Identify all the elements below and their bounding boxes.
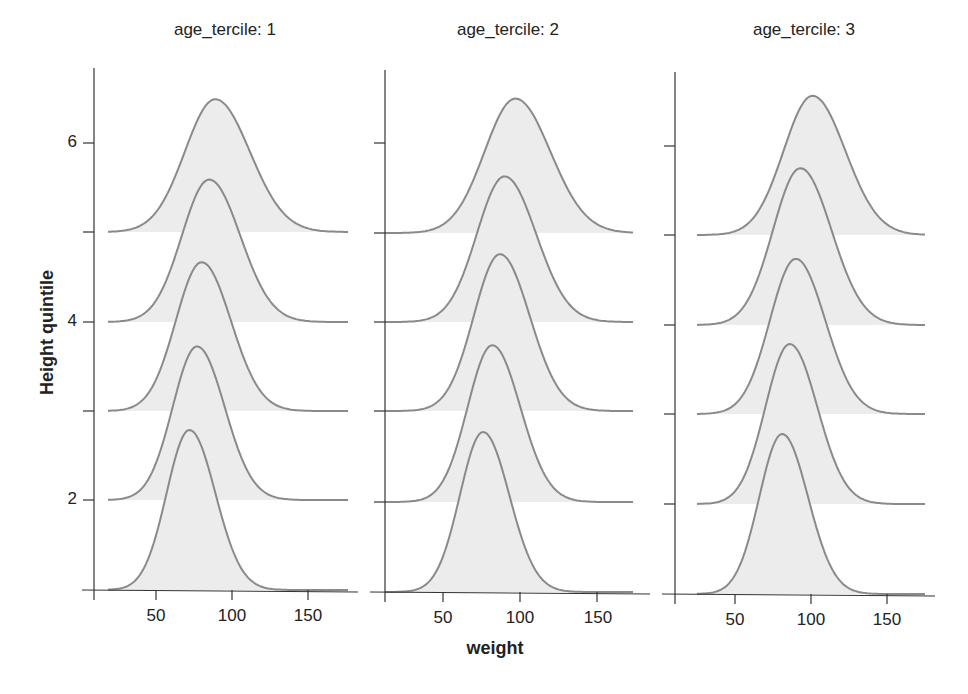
xtick-label-p1-150: 150 (283, 606, 333, 626)
xtick-label-p3-100: 100 (786, 610, 836, 630)
panel-title-1: age_tercile: 1 (115, 20, 335, 40)
xtick-label-p3-150: 150 (862, 610, 912, 630)
xtick-label-p1-100: 100 (207, 606, 257, 626)
xtick-label-p3-50: 50 (710, 610, 760, 630)
ridgeline-chart (0, 0, 968, 694)
panel-title-2: age_tercile: 2 (398, 20, 618, 40)
panel-title-3: age_tercile: 3 (694, 20, 914, 40)
ytick-label-2: 2 (53, 489, 77, 509)
xtick-label-p1-50: 50 (131, 606, 181, 626)
x-axis-label: weight (445, 638, 545, 659)
ytick-label-6: 6 (53, 132, 77, 152)
y-axis-label: Height quintile (37, 258, 58, 408)
xtick-label-p2-150: 150 (573, 608, 623, 628)
xtick-label-p2-50: 50 (418, 608, 468, 628)
xtick-label-p2-100: 100 (495, 608, 545, 628)
